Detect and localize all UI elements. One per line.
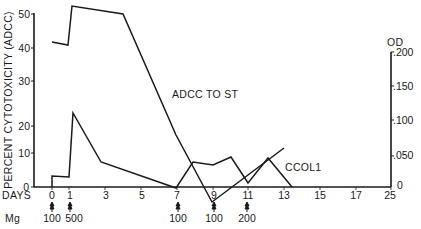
y2-tick-150: .150 bbox=[393, 80, 414, 92]
y2-axis-title: OD bbox=[387, 36, 403, 48]
x-tick-17: 17 bbox=[350, 189, 362, 201]
x-tick-5: 5 bbox=[139, 189, 145, 201]
arrow-up-icon bbox=[176, 202, 180, 212]
dose-mg-11: 200 bbox=[238, 212, 256, 224]
y-axis-title: PERCENT CYTOTOXICITY (ADCC) bbox=[2, 11, 14, 189]
arrow-up-icon bbox=[50, 202, 54, 212]
chart: 0 10 20 30 40 50 PERCENT CYTOTOXICITY (A… bbox=[0, 0, 421, 229]
series-ccol1-label: CCOL1 bbox=[285, 161, 322, 173]
x-tick-25: 25 bbox=[384, 189, 396, 201]
mg-row-label: Mg bbox=[5, 212, 20, 224]
x-tick-11: 11 bbox=[243, 189, 254, 201]
y-tick-50: 50 bbox=[18, 8, 30, 20]
y2-tick-100: .100 bbox=[393, 114, 414, 126]
x-tick-3: 3 bbox=[103, 189, 109, 201]
y-tick-30: 30 bbox=[18, 75, 30, 87]
x-tick-13: 13 bbox=[278, 189, 290, 201]
dose-arrows bbox=[50, 202, 249, 212]
y-tick-20: 20 bbox=[18, 120, 30, 132]
dose-mg-1: 500 bbox=[65, 212, 83, 224]
y2-tick-050: .050 bbox=[393, 149, 414, 161]
x-axis-title: DAYS bbox=[2, 189, 31, 201]
dose-mg-0: 100 bbox=[43, 212, 61, 224]
y-tick-10: 10 bbox=[18, 147, 30, 159]
y2-tick-0: 0 bbox=[397, 179, 403, 191]
arrow-up-icon bbox=[68, 202, 72, 212]
dose-mg-7: 100 bbox=[169, 212, 187, 224]
series-adcc-label: ADCC TO ST bbox=[172, 88, 238, 100]
y-tick-40: 40 bbox=[18, 42, 30, 54]
series-adcc-line bbox=[52, 6, 284, 202]
x-tick-0: 0 bbox=[49, 189, 55, 201]
x-tick-7: 7 bbox=[174, 189, 180, 201]
dose-mg-9: 100 bbox=[205, 212, 223, 224]
arrow-up-icon bbox=[245, 202, 249, 212]
x-tick-1: 1 bbox=[67, 189, 73, 201]
arrow-up-icon bbox=[212, 202, 216, 212]
x-tick-15: 15 bbox=[314, 189, 326, 201]
